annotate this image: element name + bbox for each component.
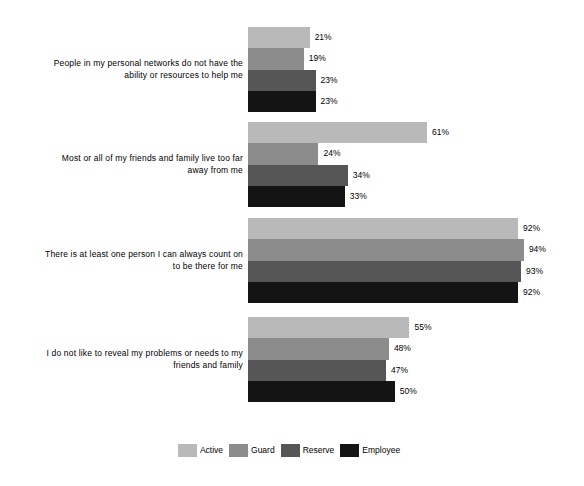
legend-label: Active <box>200 444 223 457</box>
bar-value-label: 34% <box>353 165 370 186</box>
category-group: Most or all of my friends and family liv… <box>0 122 584 207</box>
category-group: I do not like to reveal my problems or n… <box>0 317 584 402</box>
category-group: People in my personal networks do not ha… <box>0 27 584 112</box>
category-label: I do not like to reveal my problems or n… <box>13 348 243 371</box>
category-label-line: People in my personal networks do not ha… <box>13 58 243 70</box>
bar-employee[interactable] <box>248 381 395 402</box>
bar-reserve[interactable] <box>248 261 521 282</box>
bar-guard[interactable] <box>248 143 318 164</box>
legend-item-reserve[interactable]: Reserve <box>281 444 335 457</box>
bar-value-label: 61% <box>432 122 449 143</box>
bar-value-label: 92% <box>523 282 540 303</box>
chart-legend: ActiveGuardReserveEmployee <box>0 440 584 460</box>
category-group: There is at least one person I can alway… <box>0 218 584 303</box>
category-label-line: friends and family <box>13 360 243 372</box>
bar-value-label: 48% <box>394 338 411 359</box>
bar-active[interactable] <box>248 317 409 338</box>
legend-swatch-icon <box>229 444 248 457</box>
category-label: People in my personal networks do not ha… <box>13 58 243 81</box>
bar-value-label: 94% <box>529 239 546 260</box>
bar-value-label: 23% <box>321 70 338 91</box>
bar-reserve[interactable] <box>248 360 386 381</box>
bar-value-label: 19% <box>309 48 326 69</box>
category-label: Most or all of my friends and family liv… <box>13 153 243 176</box>
bar-employee[interactable] <box>248 282 518 303</box>
legend-swatch-icon <box>178 444 197 457</box>
bar-value-label: 23% <box>321 91 338 112</box>
bar-value-label: 21% <box>315 27 332 48</box>
legend-item-employee[interactable]: Employee <box>340 444 400 457</box>
legend-label: Reserve <box>303 444 335 457</box>
bar-value-label: 50% <box>400 381 417 402</box>
category-label-line: I do not like to reveal my problems or n… <box>13 348 243 360</box>
category-label-line: away from me <box>13 165 243 177</box>
bar-value-label: 55% <box>414 317 431 338</box>
bar-value-label: 92% <box>523 218 540 239</box>
category-label: There is at least one person I can alway… <box>13 249 243 272</box>
legend-swatch-icon <box>281 444 300 457</box>
legend-label: Employee <box>362 444 400 457</box>
bar-guard[interactable] <box>248 48 304 69</box>
bar-guard[interactable] <box>248 239 524 260</box>
bar-chart: People in my personal networks do not ha… <box>0 0 584 486</box>
bar-value-label: 47% <box>391 360 408 381</box>
category-label-line: Most or all of my friends and family liv… <box>13 153 243 165</box>
bar-active[interactable] <box>248 218 518 239</box>
legend-item-active[interactable]: Active <box>178 444 223 457</box>
bar-employee[interactable] <box>248 186 345 207</box>
legend-swatch-icon <box>340 444 359 457</box>
legend-label: Guard <box>251 444 275 457</box>
bar-employee[interactable] <box>248 91 316 112</box>
bar-value-label: 24% <box>323 143 340 164</box>
bar-guard[interactable] <box>248 338 389 359</box>
category-label-line: There is at least one person I can alway… <box>13 249 243 261</box>
category-label-line: to be there for me <box>13 261 243 273</box>
bar-reserve[interactable] <box>248 165 348 186</box>
plot-area: People in my personal networks do not ha… <box>0 0 584 420</box>
bar-active[interactable] <box>248 122 427 143</box>
bar-value-label: 93% <box>526 261 543 282</box>
category-label-line: ability or resources to help me <box>13 70 243 82</box>
legend-item-guard[interactable]: Guard <box>229 444 275 457</box>
bar-value-label: 33% <box>350 186 367 207</box>
bar-reserve[interactable] <box>248 70 316 91</box>
bar-active[interactable] <box>248 27 310 48</box>
